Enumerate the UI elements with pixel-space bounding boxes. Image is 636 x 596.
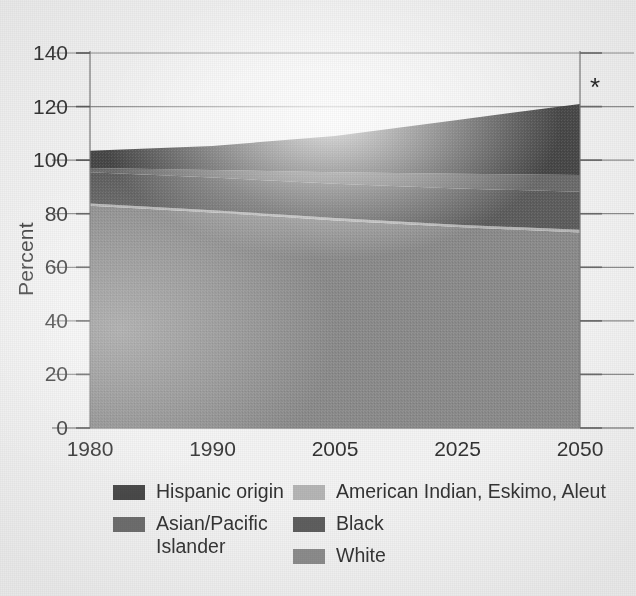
area-texture [90,206,580,428]
legend-item-label: Asian/Pacific Islander [156,512,293,558]
x-tick-label-2050: 2050 [557,437,604,460]
projection-asterisk: * [590,72,600,102]
plot-area: 02040608010012014019801990200520252050* [0,0,636,474]
area-texture [90,104,580,175]
legend-column-left: Hispanic originAsian/Pacific Islander [113,480,293,566]
y-tick-label-100: 100 [33,148,68,171]
legend-item-label: White [336,544,386,567]
x-tick-label-2025: 2025 [434,437,481,460]
legend-swatch-american-indian [293,485,325,500]
x-tick-labels: 19801990200520252050 [67,437,604,460]
legend-item-label: Black [336,512,384,535]
y-axis-label: Percent [14,104,38,178]
legend-item-label: American Indian, Eskimo, Aleut [336,480,606,503]
legend-swatch-black [293,517,325,532]
y-tick-label-80: 80 [45,202,68,225]
y-tick-label-140: 140 [33,41,68,64]
legend-swatch-hispanic-origin [113,485,145,500]
y-tick-label-120: 120 [33,95,68,118]
legend-swatch-white [293,549,325,564]
legend-item[interactable]: White [293,544,633,567]
y-tick-label-40: 40 [45,309,68,332]
series-areas [90,104,580,428]
legend-column-right: American Indian, Eskimo, AleutBlackWhite [293,480,633,575]
y-tick-label-60: 60 [45,255,68,278]
y-tick-label-0: 0 [56,416,68,439]
legend-swatch-asian-pacific-islander [113,517,145,532]
y-tick-labels: 020406080100120140 [33,41,68,439]
legend-item[interactable]: Black [293,512,633,535]
x-tick-label-1980: 1980 [67,437,114,460]
legend-item-label: Hispanic origin [156,480,284,503]
chart-legend: Hispanic originAsian/Pacific Islander Am… [0,474,636,596]
x-tick-label-1990: 1990 [189,437,236,460]
x-tick-label-2005: 2005 [312,437,359,460]
y-tick-label-20: 20 [45,362,68,385]
legend-item[interactable]: Hispanic origin [113,480,293,503]
legend-item[interactable]: American Indian, Eskimo, Aleut [293,480,633,503]
legend-item[interactable]: Asian/Pacific Islander [113,512,293,558]
